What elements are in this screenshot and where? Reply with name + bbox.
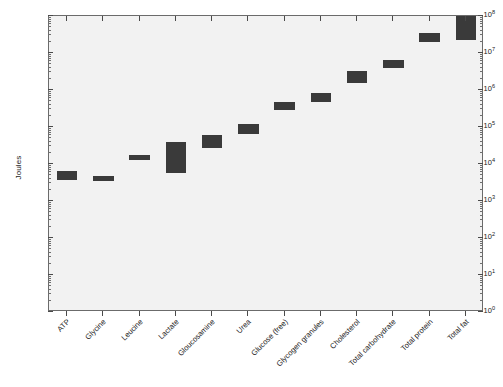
- bar-total-carbohydrate: [383, 60, 403, 67]
- y-tick-mark: [478, 274, 483, 275]
- y-tick-mark: [48, 311, 53, 312]
- x-tick-label: Cholesterol: [329, 318, 362, 351]
- y-tick-minor: [48, 78, 51, 79]
- y-tick-minor: [480, 67, 483, 68]
- x-tick-label: Glucose (free): [250, 318, 289, 357]
- y-tick-minor: [48, 137, 51, 138]
- y-tick-minor: [48, 293, 51, 294]
- y-tick-minor: [48, 63, 51, 64]
- bar-atp: [57, 171, 77, 181]
- y-tick-minor: [48, 202, 51, 203]
- y-tick-minor: [48, 285, 51, 286]
- x-tick-mark: [356, 311, 357, 316]
- y-tick-minor: [480, 26, 483, 27]
- x-tick-label: Leucine: [120, 318, 144, 342]
- bar-total-protein: [419, 33, 439, 42]
- y-tick-minor: [48, 178, 51, 179]
- y-tick-mark: [478, 163, 483, 164]
- y-tick-label: 105: [484, 122, 495, 130]
- y-tick-minor: [48, 276, 51, 277]
- y-tick-minor: [480, 95, 483, 96]
- x-tick-mark: [392, 311, 393, 316]
- y-tick-minor: [480, 208, 483, 209]
- y-tick-minor: [48, 169, 51, 170]
- y-tick-minor: [480, 243, 483, 244]
- y-tick-minor: [480, 211, 483, 212]
- y-tick-minor: [48, 241, 51, 242]
- bar-glucose-free: [274, 102, 294, 109]
- y-tick-minor: [48, 263, 51, 264]
- x-tick-mark-top: [284, 16, 285, 21]
- x-tick-mark-top: [66, 16, 67, 21]
- x-tick-mark: [247, 311, 248, 316]
- y-tick-minor: [480, 171, 483, 172]
- y-tick-mark: [48, 163, 53, 164]
- y-tick-label: 106: [484, 85, 495, 93]
- y-tick-minor: [480, 215, 483, 216]
- y-tick-minor: [48, 71, 51, 72]
- y-tick-minor: [480, 219, 483, 220]
- y-tick-minor: [48, 104, 51, 105]
- y-tick-minor: [480, 248, 483, 249]
- x-tick-label: Lactate: [157, 318, 180, 341]
- y-tick-minor: [480, 289, 483, 290]
- y-tick-label: 102: [484, 233, 495, 241]
- y-tick-minor: [48, 93, 51, 94]
- x-tick-mark: [139, 311, 140, 316]
- y-tick-minor: [48, 17, 51, 18]
- y-tick-minor: [48, 208, 51, 209]
- y-tick-minor: [480, 58, 483, 59]
- y-tick-minor: [48, 60, 51, 61]
- y-tick-minor: [480, 97, 483, 98]
- y-tick-minor: [48, 211, 51, 212]
- y-tick-minor: [480, 30, 483, 31]
- y-tick-minor: [48, 165, 51, 166]
- y-tick-minor: [48, 278, 51, 279]
- y-tick-minor: [480, 300, 483, 301]
- y-tick-minor: [480, 145, 483, 146]
- y-tick-minor: [48, 182, 51, 183]
- y-tick-minor: [48, 19, 51, 20]
- y-tick-minor: [48, 141, 51, 142]
- y-tick-minor: [480, 71, 483, 72]
- y-tick-minor: [48, 26, 51, 27]
- y-tick-minor: [48, 41, 51, 42]
- y-tick-minor: [48, 256, 51, 257]
- x-tick-mark: [175, 311, 176, 316]
- y-tick-minor: [48, 108, 51, 109]
- x-tick-mark: [465, 311, 466, 316]
- y-tick-minor: [48, 67, 51, 68]
- y-tick-minor: [48, 23, 51, 24]
- x-tick-label: Gloucosamine: [177, 318, 217, 358]
- y-tick-minor: [480, 60, 483, 61]
- y-tick-minor: [480, 78, 483, 79]
- y-tick-minor: [480, 152, 483, 153]
- y-tick-minor: [48, 215, 51, 216]
- y-tick-mark: [48, 89, 53, 90]
- y-tick-label: 101: [484, 270, 495, 278]
- y-tick-minor: [48, 58, 51, 59]
- y-tick-mark: [48, 237, 53, 238]
- y-tick-minor: [480, 226, 483, 227]
- y-tick-mark: [48, 200, 53, 201]
- bar-gloucosamine: [202, 135, 222, 148]
- y-tick-minor: [48, 145, 51, 146]
- y-tick-minor: [48, 206, 51, 207]
- y-tick-minor: [48, 174, 51, 175]
- y-tick-minor: [480, 115, 483, 116]
- y-axis: Joules: [0, 0, 48, 387]
- y-tick-minor: [48, 21, 51, 22]
- bar-leucine: [129, 155, 149, 160]
- y-tick-label: 107: [484, 48, 495, 56]
- y-tick-minor: [48, 171, 51, 172]
- y-tick-minor: [480, 134, 483, 135]
- y-tick-minor: [480, 178, 483, 179]
- y-tick-minor: [480, 108, 483, 109]
- y-tick-minor: [480, 34, 483, 35]
- y-tick-mark: [478, 311, 483, 312]
- y-tick-minor: [480, 206, 483, 207]
- y-tick-minor: [480, 245, 483, 246]
- y-axis-title: Joules: [14, 138, 23, 198]
- chart-figure: Joules 100101102103104105106107108 ATPGl…: [0, 0, 503, 387]
- y-tick-minor: [48, 132, 51, 133]
